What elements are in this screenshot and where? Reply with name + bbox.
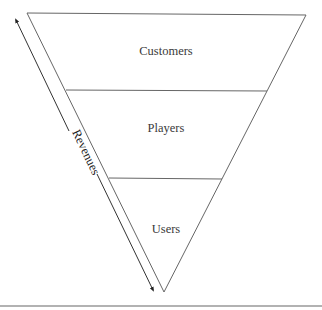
arrow-upper-segment bbox=[16, 20, 69, 131]
funnel-diagram: Customers Players Users Revenues bbox=[0, 0, 322, 310]
level-players-label: Players bbox=[148, 121, 185, 135]
revenues-label: Revenues bbox=[69, 127, 103, 177]
divider-players-users bbox=[109, 178, 222, 179]
level-customers-label: Customers bbox=[139, 44, 193, 58]
level-users-label: Users bbox=[152, 222, 181, 236]
arrow-lower-segment bbox=[97, 174, 153, 290]
divider-customers-players bbox=[66, 90, 267, 91]
